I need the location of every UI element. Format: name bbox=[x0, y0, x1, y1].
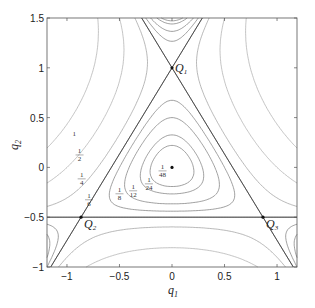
contour-label-den: 2 bbox=[78, 155, 82, 163]
axes: −1−0.500.51−1−0.500.511.5 bbox=[24, 13, 297, 282]
point-label-q3: Q3 bbox=[266, 217, 279, 232]
y-tick-label: −1 bbox=[33, 262, 45, 273]
contour-label-den: 8 bbox=[118, 194, 122, 202]
contour-level-1 bbox=[47, 18, 297, 148]
contour-label-num: 1 bbox=[87, 192, 91, 200]
x-tick-label: 0.5 bbox=[218, 271, 232, 282]
point-marker bbox=[170, 66, 173, 69]
y-axis-label: q2 bbox=[7, 140, 23, 150]
contour-label-num: 1 bbox=[147, 176, 151, 184]
y-tick-label: 1.5 bbox=[30, 13, 44, 24]
contour-label-den: 24 bbox=[145, 184, 153, 192]
point-label-q1: Q1 bbox=[175, 61, 187, 76]
y-tick-label: 1 bbox=[38, 63, 44, 74]
contour-label-den: 48 bbox=[159, 171, 167, 179]
y-tick-label: 0 bbox=[38, 162, 44, 173]
contour-label-den: 4 bbox=[80, 179, 84, 187]
point-label-q2: Q2 bbox=[84, 217, 97, 232]
point-marker bbox=[79, 216, 82, 219]
contour-label-den: 6 bbox=[87, 200, 91, 208]
contour-label-num: 1 bbox=[78, 147, 82, 155]
x-axis-label: q1 bbox=[168, 283, 178, 299]
separatrix-line bbox=[51, 18, 203, 267]
point-marker bbox=[261, 216, 264, 219]
contour-label: 1 bbox=[73, 130, 77, 138]
contour-label-num: 1 bbox=[131, 183, 135, 191]
point-marker bbox=[170, 166, 173, 169]
x-tick-label: 1 bbox=[274, 271, 280, 282]
y-tick-label: 0.5 bbox=[30, 113, 44, 124]
contour-label-num: 1 bbox=[80, 171, 84, 179]
equilibrium-points: Q1Q2Q3 bbox=[79, 61, 278, 232]
y-tick-label: −0.5 bbox=[24, 212, 44, 223]
x-tick-label: −1 bbox=[61, 271, 73, 282]
contour-label-den: 12 bbox=[130, 191, 138, 199]
x-tick-label: −0.5 bbox=[110, 271, 130, 282]
contour-chart: Q1Q2Q3 112141618112124148 −1−0.500.51−1−… bbox=[0, 0, 315, 308]
x-tick-label: 0 bbox=[169, 271, 175, 282]
contour-labels: 112141618112124148 bbox=[73, 130, 167, 209]
contour-label-num: 1 bbox=[118, 186, 122, 194]
contour-label-num: 1 bbox=[161, 163, 165, 171]
